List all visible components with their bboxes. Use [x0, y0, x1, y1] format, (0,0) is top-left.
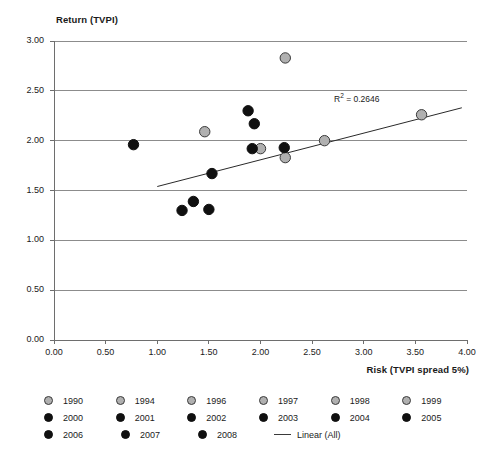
legend-label: 1997 [278, 396, 298, 406]
legend-label: 2008 [217, 430, 237, 440]
legend-marker-icon [116, 413, 125, 422]
trendline [157, 108, 462, 187]
legend-marker-icon [44, 396, 53, 405]
y-tick-label: 3.00 [8, 35, 44, 45]
x-tick-label: 1.50 [189, 347, 229, 357]
legend-item-2008[interactable]: 2008 [198, 430, 275, 440]
data-point-2006 [188, 196, 198, 206]
y-tick-label: 0.50 [8, 284, 44, 294]
r-squared-annotation: R2 = 0.2646 [334, 92, 379, 104]
legend-item-2006[interactable]: 2006 [44, 430, 121, 440]
data-point-1997 [280, 53, 290, 63]
legend-marker-icon [402, 396, 411, 405]
legend-item-1996[interactable]: 1996 [187, 396, 259, 406]
legend-marker-icon [259, 413, 268, 422]
data-points [128, 53, 426, 216]
legend-label: 2001 [135, 413, 155, 423]
gridlines [54, 41, 467, 340]
legend-label: 1999 [421, 396, 441, 406]
legend-label: 1996 [206, 396, 226, 406]
data-point-2005 [177, 205, 187, 215]
legend-marker-icon [187, 396, 196, 405]
chart-legend: 1990199419961997199819992000200120022003… [44, 392, 474, 443]
legend-label: 2000 [63, 413, 83, 423]
legend-item-2007[interactable]: 2007 [121, 430, 198, 440]
legend-label: 2004 [350, 413, 370, 423]
legend-marker-icon [44, 430, 53, 439]
legend-item-1997[interactable]: 1997 [259, 396, 331, 406]
legend-item-1998[interactable]: 1998 [331, 396, 403, 406]
data-point-2003 [279, 142, 289, 152]
x-tick-label: 0.50 [86, 347, 126, 357]
y-tick-label: 1.50 [8, 185, 44, 195]
legend-row: 199019941996199719981999 [44, 392, 474, 409]
x-tick-label: 3.00 [344, 347, 384, 357]
legend-label: 2005 [421, 413, 441, 423]
legend-item-1994[interactable]: 1994 [116, 396, 188, 406]
legend-label: 2003 [278, 413, 298, 423]
legend-item-2003[interactable]: 2003 [259, 413, 331, 423]
x-tick-label: 0.00 [34, 347, 74, 357]
x-tick-label: 1.00 [137, 347, 177, 357]
data-point-2002 [249, 119, 259, 129]
legend-item-2001[interactable]: 2001 [116, 413, 188, 423]
legend-marker-icon [44, 413, 53, 422]
legend-label: 2006 [63, 430, 83, 440]
legend-row: 200020012002200320042005 [44, 409, 474, 426]
legend-line-swatch [274, 434, 291, 435]
data-point-2007 [204, 204, 214, 214]
legend-label: Linear (All) [297, 430, 341, 440]
scatter-chart: Return (TVPI) 0.000.501.001.502.002.503.… [0, 0, 497, 455]
legend-marker-icon [116, 396, 125, 405]
x-tick-label: 2.50 [292, 347, 332, 357]
plot-canvas [0, 0, 497, 455]
legend-marker-icon [121, 430, 130, 439]
legend-item-1999[interactable]: 1999 [402, 396, 474, 406]
legend-marker-icon [198, 430, 207, 439]
data-point-2000 [128, 139, 138, 149]
legend-label: 1998 [350, 396, 370, 406]
x-tick-label: 2.00 [241, 347, 281, 357]
x-axis-title: Risk (TVPI spread 5%) [367, 364, 469, 375]
x-tick-label: 4.00 [447, 347, 487, 357]
legend-label: 1994 [135, 396, 155, 406]
legend-item-1990[interactable]: 1990 [44, 396, 116, 406]
legend-row: 200620072008Linear (All) [44, 426, 474, 443]
data-point-1999 [416, 110, 426, 120]
data-point-1998 [280, 152, 290, 162]
data-point-2008 [247, 143, 257, 153]
y-tick-label: 2.00 [8, 135, 44, 145]
legend-item-2000[interactable]: 2000 [44, 413, 116, 423]
y-tick-label: 0.00 [8, 334, 44, 344]
legend-marker-icon [402, 413, 411, 422]
legend-marker-icon [331, 413, 340, 422]
data-point-1996 [200, 126, 210, 136]
data-point-2001 [243, 106, 253, 116]
legend-item-2002[interactable]: 2002 [187, 413, 259, 423]
x-tick-label: 3.50 [395, 347, 435, 357]
y-tick-label: 1.00 [8, 234, 44, 244]
y-tick-label: 2.50 [8, 85, 44, 95]
tick-marks [50, 41, 467, 344]
legend-marker-icon [331, 396, 340, 405]
data-point-1990 [319, 135, 329, 145]
legend-label: 1990 [63, 396, 83, 406]
legend-label: 2002 [206, 413, 226, 423]
legend-item-linear-all[interactable]: Linear (All) [275, 430, 352, 440]
legend-label: 2007 [140, 430, 160, 440]
legend-marker-icon [259, 396, 268, 405]
legend-marker-icon [187, 413, 196, 422]
legend-item-2005[interactable]: 2005 [402, 413, 474, 423]
legend-item-2004[interactable]: 2004 [331, 413, 403, 423]
data-point-2004 [207, 168, 217, 178]
